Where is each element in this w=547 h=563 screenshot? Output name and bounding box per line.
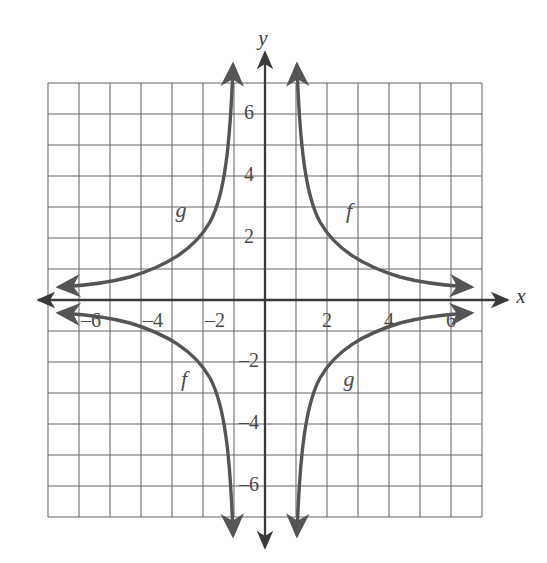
x-axis-label: x (515, 284, 526, 308)
x-tick-label-neg6: –6 (80, 309, 101, 331)
y-tick-label-6: 6 (244, 101, 254, 123)
x-tick-label-neg2: –2 (204, 309, 225, 331)
y-axis-label: y (256, 26, 268, 50)
y-tick-label-4: 4 (244, 163, 254, 185)
curve-label-g-lower-right: g (344, 366, 355, 391)
y-tick-label-2: 2 (244, 225, 254, 247)
x-tick-label-6: 6 (446, 309, 456, 331)
curve-label-g-upper-left: g (176, 197, 187, 222)
y-tick-label-neg6: –6 (238, 473, 259, 495)
y-tick-label-neg2: –2 (238, 349, 259, 371)
figure-background (0, 0, 547, 563)
x-tick-label-2: 2 (322, 309, 332, 331)
y-tick-label-neg4: –4 (238, 411, 259, 433)
coordinate-plane-figure: x y –6 –4 –2 2 4 6 6 4 2 –2 –4 –6 g f f … (0, 0, 547, 563)
